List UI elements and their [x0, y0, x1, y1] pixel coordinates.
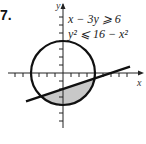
x-axis-label: x	[136, 77, 142, 88]
y-axis-arrow-icon	[61, 3, 66, 9]
y-axis-label: y	[55, 0, 61, 11]
x-axis-arrow-icon	[138, 71, 144, 76]
inequality-graph: x y	[0, 0, 146, 144]
